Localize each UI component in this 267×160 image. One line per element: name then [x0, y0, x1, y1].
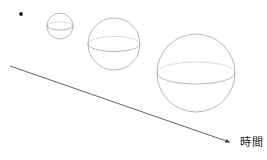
stage-sphere-small [47, 13, 73, 39]
stage-point-singularity [19, 12, 23, 16]
point-singularity-dot [19, 12, 23, 16]
sphere-small-equator-front [47, 26, 73, 30]
stage-sphere-medium [88, 18, 140, 70]
time-axis-label: 時間 [240, 137, 263, 149]
stage-sphere-large [157, 34, 235, 112]
sphere-medium-equator-front [88, 44, 140, 52]
sphere-large-outline [157, 34, 235, 112]
sphere-large-equator-back [157, 62, 235, 73]
expanding-spheres-diagram [0, 0, 267, 160]
sphere-medium-outline [88, 18, 140, 70]
sphere-small-outline [47, 13, 73, 39]
time-axis-group [10, 66, 230, 142]
diagram-canvas: 時間 [0, 0, 267, 160]
sphere-small-equator-back [47, 22, 73, 26]
time-axis-arrow [10, 66, 230, 142]
sphere-large-equator-front [157, 73, 235, 84]
sphere-medium-equator-back [88, 37, 140, 45]
